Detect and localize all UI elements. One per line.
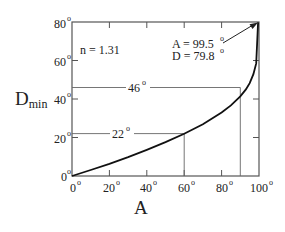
deg-mark: o — [77, 178, 81, 187]
annotation-D: D = 79.8 — [172, 49, 214, 63]
deg-mark: o — [153, 178, 157, 187]
deg-mark: o — [116, 178, 120, 187]
deg-mark: o — [67, 52, 71, 61]
deg-mark: o — [191, 178, 195, 187]
y-axis-label: Dmin — [15, 88, 47, 111]
ytick-40: 40 — [54, 93, 66, 107]
deg-mark: o — [67, 90, 71, 99]
xtick-0: 0 — [70, 181, 76, 195]
deg-mark: o — [126, 124, 130, 133]
deg-mark: o — [142, 78, 146, 87]
label-46: 46 — [128, 81, 140, 95]
xtick-80: 80 — [216, 181, 228, 195]
label-22: 22 — [112, 127, 124, 141]
refractive-index-label: n = 1.31 — [80, 43, 120, 57]
reference-lines — [72, 88, 240, 177]
deg-mark: o — [67, 14, 71, 23]
xtick-60: 60 — [178, 181, 190, 195]
xtick-40: 40 — [140, 181, 152, 195]
ytick-20: 20 — [54, 132, 66, 146]
ytick-80: 80 — [54, 17, 66, 31]
x-axis-label: A — [134, 197, 148, 218]
deg-mark: o — [229, 178, 233, 187]
deg-mark: o — [220, 34, 224, 43]
ytick-60: 60 — [54, 55, 66, 69]
deg-mark: o — [220, 46, 224, 55]
xtick-100: 100 — [250, 181, 268, 195]
deviation-chart: 80 o 60 o 40 o 20 o 0 o 0 o 20 o 40 o 60… — [0, 0, 285, 232]
xtick-20: 20 — [103, 181, 115, 195]
annotation-arrow — [223, 23, 258, 44]
deg-mark: o — [67, 129, 71, 138]
deg-mark: o — [67, 167, 71, 176]
deg-mark: o — [269, 178, 273, 187]
